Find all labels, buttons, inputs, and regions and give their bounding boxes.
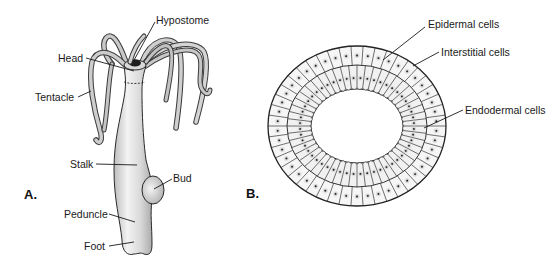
- label-epidermal-cells: Epidermal cells: [428, 18, 499, 30]
- label-peduncle: Peduncle: [64, 208, 108, 220]
- cross-section: [268, 46, 446, 206]
- tentacles: [91, 36, 210, 142]
- hydra-illustration: [91, 36, 210, 255]
- label-hypostome: Hypostome: [156, 14, 209, 26]
- label-bud: Bud: [173, 172, 192, 184]
- hydra-diagram: Hypostome Head Tentacle Stalk Bud Pedunc…: [0, 0, 559, 270]
- hydra-body: [114, 66, 153, 255]
- label-head: Head: [58, 52, 83, 64]
- label-tentacle: Tentacle: [35, 91, 74, 103]
- panel-label-b: B.: [246, 186, 259, 201]
- label-endodermal-cells: Endodermal cells: [465, 104, 546, 116]
- label-stalk: Stalk: [70, 158, 94, 170]
- label-foot: Foot: [84, 240, 105, 252]
- hydra-bud: [142, 176, 164, 204]
- label-interstitial-cells: Interstitial cells: [441, 46, 510, 58]
- panel-label-a: A.: [24, 187, 37, 202]
